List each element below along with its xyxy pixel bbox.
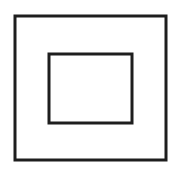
outer-square	[15, 16, 166, 160]
inner-square	[49, 54, 132, 123]
double-insulation-icon	[0, 0, 181, 175]
